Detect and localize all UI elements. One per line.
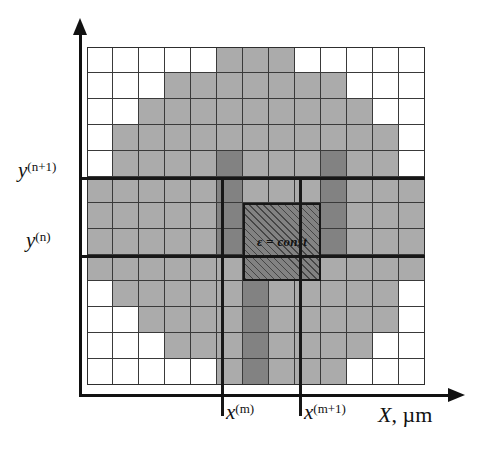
grid-cell [373,255,399,281]
grid-cell [373,359,399,385]
grid-cell [321,73,347,99]
grid-cell [347,73,373,99]
grid-cell [269,47,295,73]
grid-cell [113,307,139,333]
grid-cell [191,151,217,177]
grid-cell [399,281,425,307]
grid-cell [321,281,347,307]
grid-cell [87,73,113,99]
grid-cell [165,281,191,307]
grid-cell [191,333,217,359]
marker-line-x-m [221,177,224,416]
grid-cell [165,333,191,359]
grid-cell [399,333,425,359]
grid-cell [113,47,139,73]
grid-cell [165,359,191,385]
grid-cell [87,255,113,281]
grid-cell [269,177,295,203]
grid-cell [399,99,425,125]
grid-cell [113,125,139,151]
x-tick-var-m-plus-1: x [304,400,313,424]
grid-cell [373,229,399,255]
figure-root: ε = const y(n+1) y(n) x(m) x(m+1) X, µm [0,0,486,457]
grid-cell [139,73,165,99]
grid-cell [399,177,425,203]
grid-cell [139,125,165,151]
grid-cell [191,307,217,333]
grid-cell [191,47,217,73]
grid-cell [87,359,113,385]
grid-cell [399,47,425,73]
grid-cell [243,151,269,177]
grid-cell [87,125,113,151]
grid-cell [139,307,165,333]
grid-cell [373,177,399,203]
grid-cell [139,47,165,73]
grid-cell [399,255,425,281]
control-cell-hatched: ε = const [243,203,321,281]
grid-cell [373,151,399,177]
grid-cell [373,73,399,99]
grid-cell [399,229,425,255]
grid-cell [347,151,373,177]
grid-cell [269,73,295,99]
grid-cell [347,203,373,229]
grid-cell [165,229,191,255]
grid-cell [217,151,243,177]
y-axis-arrow-icon [73,18,87,35]
grid-cell [165,99,191,125]
grid-cell [87,177,113,203]
grid-cell [113,359,139,385]
grid-cell [217,47,243,73]
grid-cell [139,177,165,203]
grid-cell [347,177,373,203]
grid-cell [113,333,139,359]
grid-cell [321,203,347,229]
grid-cell [321,47,347,73]
marker-line-y-n-plus-1 [79,177,425,180]
grid-cell [139,229,165,255]
grid-cell [139,99,165,125]
grid-cell [217,73,243,99]
grid-cell [399,125,425,151]
grid-cell [321,333,347,359]
grid-cell [87,333,113,359]
grid-cell [321,255,347,281]
grid-cell [243,359,269,385]
grid-cell [321,229,347,255]
y-tick-label-n: y(n) [26,228,51,253]
x-axis-unit: µm [402,402,432,427]
grid-cell [269,99,295,125]
grid-cell [269,333,295,359]
grid-cell [347,333,373,359]
grid-cell [243,99,269,125]
grid-cell [347,281,373,307]
grid-cell [347,359,373,385]
grid-cell [373,203,399,229]
grid-cell [165,125,191,151]
grid-cell [113,203,139,229]
grid-cell [87,151,113,177]
x-axis-arrow-icon [448,388,465,402]
y-tick-label-n-plus-1: y(n+1) [18,158,56,183]
grid-cell [113,151,139,177]
grid-cell [243,307,269,333]
grid-cell [191,73,217,99]
grid-cell [269,307,295,333]
y-axis-line [79,32,82,397]
grid-cell [321,307,347,333]
grid-cell [217,125,243,151]
grid-cell [347,99,373,125]
grid-cell [243,281,269,307]
grid-cell [87,203,113,229]
marker-line-x-m-plus-1 [299,177,302,416]
y-tick-var-n: y [26,228,35,252]
grid-cell [269,125,295,151]
grid-cell [347,307,373,333]
grid-cell [113,73,139,99]
grid-cell [217,99,243,125]
grid-cell [321,151,347,177]
grid-cell [347,47,373,73]
grid-cell [165,73,191,99]
grid-cell [373,99,399,125]
